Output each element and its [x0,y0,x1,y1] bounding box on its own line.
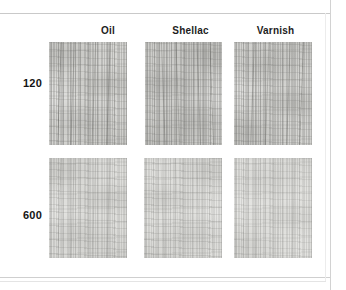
sample-120-shellac [145,42,222,145]
page-border-right-inner [325,13,326,281]
sample-120-oil [49,42,127,145]
wood-finish-sample-figure: Oil Shellac Varnish 120 600 [0,0,346,290]
panel-edge [144,158,222,258]
sample-600-varnish [234,158,312,258]
header-rule [0,13,330,14]
column-header-oil: Oil [88,25,128,36]
row-header-120: 120 [8,77,42,89]
footer-rule [0,277,330,278]
footer-rule-secondary [0,281,326,282]
sample-600-oil [49,158,127,258]
panel-edge [49,158,127,258]
column-header-shellac: Shellac [163,25,218,36]
panel-edge [234,158,312,258]
sample-600-shellac [144,158,222,258]
page-border-right-outer [330,0,331,290]
column-header-varnish: Varnish [248,25,303,36]
panel-edge [49,42,127,145]
panel-edge [145,42,222,145]
sample-120-varnish [234,42,312,145]
row-header-600: 600 [8,209,42,221]
panel-edge [234,42,312,145]
